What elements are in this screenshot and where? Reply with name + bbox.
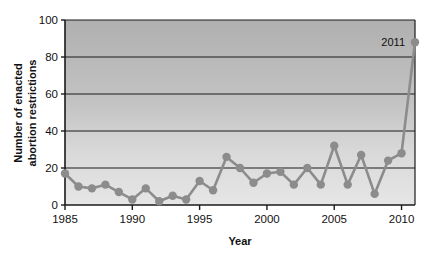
- x-axis-title: Year: [228, 235, 252, 247]
- data-point-1989: [115, 188, 123, 196]
- x-tick-label-2010: 2010: [389, 213, 415, 225]
- y-tick-label-60: 60: [45, 88, 58, 100]
- data-point-1990: [128, 195, 136, 203]
- data-point-2004: [317, 180, 325, 188]
- data-point-2010: [397, 149, 405, 157]
- x-tick-label-1990: 1990: [120, 213, 146, 225]
- data-point-1993: [168, 192, 176, 200]
- data-point-2001: [276, 168, 284, 176]
- data-point-1999: [249, 179, 257, 187]
- data-point-2005: [330, 142, 338, 150]
- data-point-1986: [74, 182, 82, 190]
- y-tick-label-100: 100: [39, 14, 58, 26]
- data-point-2003: [303, 164, 311, 172]
- annotation-2011: 2011: [381, 36, 405, 48]
- data-point-2006: [343, 180, 351, 188]
- data-point-2011: [411, 38, 419, 46]
- data-point-1988: [101, 180, 109, 188]
- plot-area-background: [65, 20, 415, 205]
- data-point-2000: [263, 169, 271, 177]
- chart-annotations: 2011: [381, 36, 405, 48]
- data-point-1987: [88, 184, 96, 192]
- y-tick-label-20: 20: [45, 162, 58, 174]
- y-tick-label-0: 0: [52, 199, 58, 211]
- data-point-1995: [195, 177, 203, 185]
- data-point-2007: [357, 151, 365, 159]
- y-tick-label-40: 40: [45, 125, 58, 137]
- line-chart: 020406080100 198519901995200020052010 20…: [0, 0, 441, 253]
- data-point-1991: [142, 184, 150, 192]
- x-tick-label-2000: 2000: [254, 213, 280, 225]
- data-point-2009: [384, 156, 392, 164]
- x-tick-label-1985: 1985: [52, 213, 78, 225]
- data-point-2008: [370, 190, 378, 198]
- data-point-1994: [182, 195, 190, 203]
- y-tick-label-80: 80: [45, 51, 58, 63]
- data-point-1998: [236, 164, 244, 172]
- y-axis-title-line1: Number of enacted: [12, 63, 24, 163]
- data-point-1985: [61, 169, 69, 177]
- data-point-2002: [290, 180, 298, 188]
- y-axis-title-line2: abortion restrictions: [26, 60, 38, 167]
- x-tick-label-1995: 1995: [187, 213, 213, 225]
- data-point-1997: [222, 153, 230, 161]
- data-point-1992: [155, 197, 163, 205]
- chart-figure: 020406080100 198519901995200020052010 20…: [0, 0, 441, 253]
- x-tick-label-2005: 2005: [321, 213, 347, 225]
- data-point-1996: [209, 186, 217, 194]
